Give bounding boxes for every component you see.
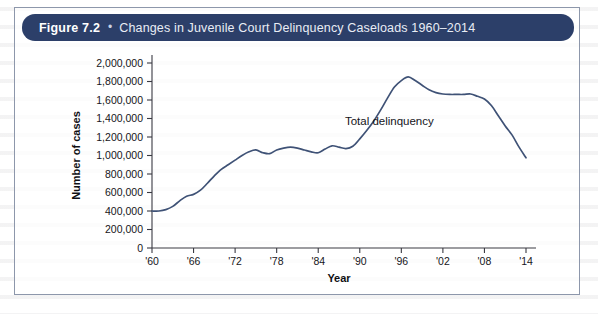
x-axis-ticks: '60'66'72'78'84'90'96'02'08'14 bbox=[145, 248, 533, 267]
x-axis-title: Year bbox=[327, 272, 351, 284]
x-tick-label: '84 bbox=[311, 255, 325, 267]
x-tick-label: '66 bbox=[187, 255, 201, 267]
y-tick-label: 600,000 bbox=[105, 186, 143, 198]
series-annotation-total-delinquency: Total delinquency bbox=[345, 115, 434, 127]
y-tick-label: 1,600,000 bbox=[96, 94, 143, 106]
series-line-total-delinquency bbox=[152, 77, 526, 211]
y-tick-label: 1,200,000 bbox=[96, 131, 143, 143]
y-tick-label: 1,800,000 bbox=[96, 75, 143, 87]
x-tick-label: '78 bbox=[270, 255, 284, 267]
y-axis-title: Number of cases bbox=[70, 111, 82, 200]
y-tick-label: 0 bbox=[137, 242, 143, 254]
line-chart: 0200,000400,000600,000800,0001,000,0001,… bbox=[15, 8, 581, 296]
y-tick-label: 800,000 bbox=[105, 168, 143, 180]
y-axis-ticks: 0200,000400,000600,000800,0001,000,0001,… bbox=[96, 57, 152, 254]
x-tick-label: '96 bbox=[394, 255, 408, 267]
y-tick-label: 2,000,000 bbox=[96, 57, 143, 69]
x-tick-label: '60 bbox=[145, 255, 159, 267]
figure-container: Figure 7.2 • Changes in Juvenile Court D… bbox=[14, 7, 580, 295]
x-tick-label: '02 bbox=[436, 255, 450, 267]
x-tick-label: '90 bbox=[353, 255, 367, 267]
chart-plot-area: 0200,000400,000600,000800,0001,000,0001,… bbox=[15, 8, 581, 296]
x-tick-label: '72 bbox=[228, 255, 242, 267]
y-tick-label: 1,400,000 bbox=[96, 112, 143, 124]
y-tick-label: 200,000 bbox=[105, 223, 143, 235]
y-tick-label: 1,000,000 bbox=[96, 149, 143, 161]
x-tick-label: '08 bbox=[478, 255, 492, 267]
y-tick-label: 400,000 bbox=[105, 205, 143, 217]
x-tick-label: '14 bbox=[519, 255, 533, 267]
